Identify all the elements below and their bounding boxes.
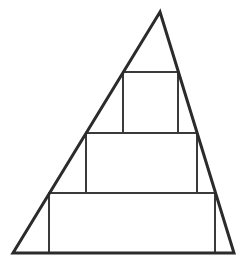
triangle-rectangles-diagram	[0, 0, 248, 260]
